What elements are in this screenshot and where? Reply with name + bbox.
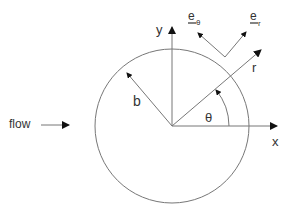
svg-text:θ: θ [196,18,201,27]
y-axis-label: y [156,22,163,37]
radius-b-label: b [133,93,141,109]
unit-vector-r-label: e r [250,9,261,28]
theta-arc [216,90,229,126]
radial-r-label: r [252,60,257,75]
x-axis-label: x [272,134,279,149]
unit-vector-theta-label: e θ [188,9,201,27]
svg-text:r: r [258,19,261,28]
unit-vector-theta-arrow [198,33,225,57]
theta-label: θ [205,110,212,125]
unit-vector-r-arrow [225,32,246,57]
svg-text:e: e [250,9,257,23]
flow-label: flow [9,117,31,131]
cylinder-flow-diagram: x y b r θ e θ e r flow [0,0,293,214]
svg-text:e: e [188,9,195,23]
